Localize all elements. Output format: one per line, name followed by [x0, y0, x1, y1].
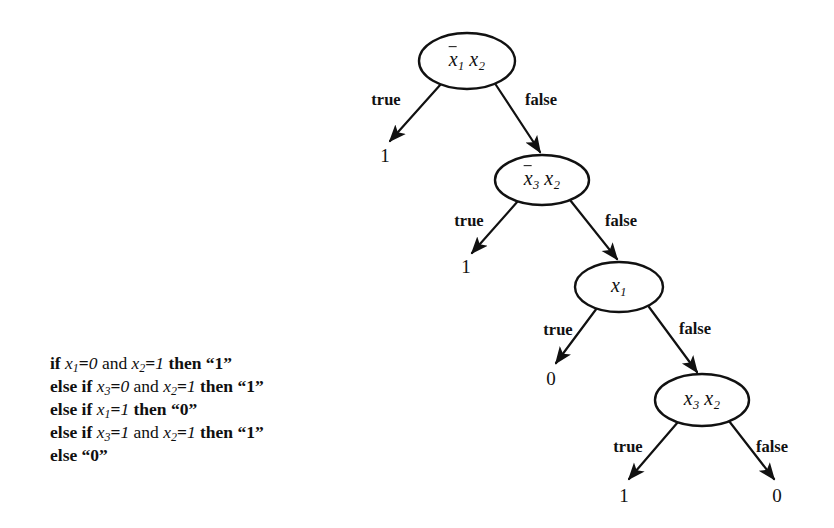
pseudocode-line-2: else if x3=0 and x2=1 then “1” — [50, 375, 380, 398]
pc-kw: then — [168, 353, 201, 373]
pseudocode-line-5: else “0” — [50, 444, 380, 467]
pc-lit: = — [79, 353, 89, 373]
edge-n3-false-label: false — [679, 319, 711, 339]
pc-kw: then — [200, 422, 233, 442]
pc-lit: = — [177, 422, 187, 442]
pc-plain: and — [134, 422, 159, 442]
pc-lit: “1” — [237, 376, 263, 396]
pseudocode-line-3: else if x1=1 then “0” — [50, 398, 380, 421]
pc-lit: = — [110, 376, 120, 396]
edge-root-true-label: true — [371, 90, 400, 110]
pc-kw: then — [134, 399, 167, 419]
leaf-3: 0 — [546, 368, 556, 390]
pc-plain: and — [134, 376, 159, 396]
pc-lit: = — [110, 399, 120, 419]
pseudocode-block: if x1=0 and x2=1 then “1”else if x3=0 an… — [50, 352, 380, 467]
edge-n3-true-label: true — [543, 320, 572, 340]
pseudocode-line-4: else if x3=1 and x2=1 then “1” — [50, 421, 380, 444]
pc-variable: x1 — [65, 353, 79, 373]
pc-lit: “0” — [82, 445, 108, 465]
edge-n3-false — [649, 307, 697, 372]
pc-num: 0 — [89, 353, 98, 373]
node-2-label: x3 x2 — [524, 167, 561, 193]
node-4-label: x3 x2 — [684, 387, 721, 413]
pc-variable: x3 — [97, 422, 111, 442]
figure-canvas: x1 x2x3 x2x1x3 x2 truefalsetruefalsetrue… — [0, 0, 834, 528]
edge-n4-false-label: false — [756, 437, 788, 457]
edge-root-false-label: false — [525, 90, 557, 110]
pc-lit: “1” — [206, 353, 232, 373]
pc-lit: = — [110, 422, 120, 442]
pc-num: 1 — [120, 422, 129, 442]
pc-variable: x1 — [97, 399, 111, 419]
pc-num: 1 — [187, 376, 196, 396]
pc-plain: and — [102, 353, 127, 373]
pc-kw: else if — [50, 422, 92, 442]
pc-num: 1 — [155, 353, 164, 373]
pc-num: 1 — [187, 422, 196, 442]
pc-variable: x2 — [163, 422, 177, 442]
leaf-1: 1 — [380, 145, 390, 167]
leaf-2: 1 — [461, 256, 471, 278]
pc-variable: x2 — [132, 353, 146, 373]
pc-lit: “0” — [171, 399, 197, 419]
pc-lit: = — [145, 353, 155, 373]
pc-variable: x2 — [163, 376, 177, 396]
pc-kw: then — [200, 376, 233, 396]
pc-variable: x3 — [97, 376, 111, 396]
pc-lit: “1” — [237, 422, 263, 442]
pc-kw: if — [50, 353, 61, 373]
pc-kw: else if — [50, 399, 92, 419]
node-root-label: x1 x2 — [449, 48, 486, 74]
edge-n4-true-label: true — [613, 437, 642, 457]
edge-n2-true-label: true — [454, 211, 483, 231]
pc-num: 0 — [120, 376, 129, 396]
pc-num: 1 — [120, 399, 129, 419]
edge-n2-false-label: false — [605, 211, 637, 231]
pc-kw: else if — [50, 376, 92, 396]
leaf-5: 0 — [772, 485, 782, 507]
pseudocode-line-1: if x1=0 and x2=1 then “1” — [50, 352, 380, 375]
pc-lit: = — [177, 376, 187, 396]
leaf-4: 1 — [619, 485, 629, 507]
node-3-label: x1 — [611, 274, 627, 300]
pc-kw: else — [50, 445, 77, 465]
